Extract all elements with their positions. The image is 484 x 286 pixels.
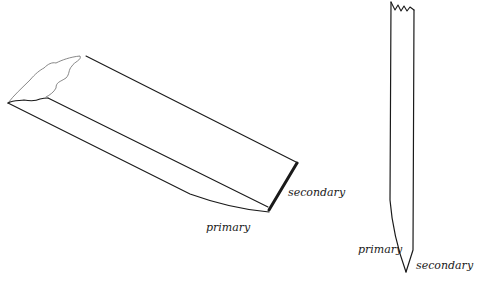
angled-blade-broken-edge (8, 56, 80, 103)
vertical-secondary-label: secondary (416, 259, 474, 272)
vertical-blade-broken-top (391, 2, 414, 11)
vertical-blade-back (406, 10, 414, 272)
angled-secondary-label: secondary (288, 186, 346, 199)
vertical-primary-label: primary (358, 243, 403, 256)
angled-blade-edge (8, 103, 269, 212)
angled-blade-bevel-line (48, 98, 268, 207)
angled-blade-spine (86, 56, 298, 163)
angled-primary-label: primary (206, 221, 251, 234)
sketch-canvas: secondary primary primary secondary (0, 0, 484, 286)
vertical-blade-spine (390, 2, 406, 272)
vertical-blade: primary secondary (358, 2, 474, 272)
angled-blade: secondary primary (8, 56, 346, 234)
angled-blade-break-line (8, 98, 48, 103)
